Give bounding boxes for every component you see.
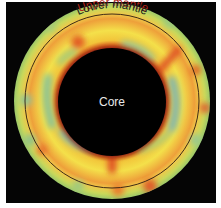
core-label: Core bbox=[99, 95, 125, 109]
mantle-cross-section: Upper mantle Lower mantle Core bbox=[0, 0, 221, 208]
